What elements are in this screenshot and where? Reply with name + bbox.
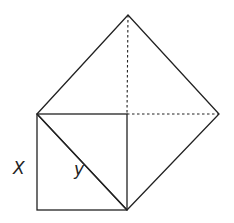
label-x: X xyxy=(12,158,25,178)
large-square xyxy=(37,15,219,210)
diagram-canvas: X y xyxy=(0,0,234,223)
label-y: y xyxy=(73,159,85,179)
dotted-vertical xyxy=(127,15,128,114)
